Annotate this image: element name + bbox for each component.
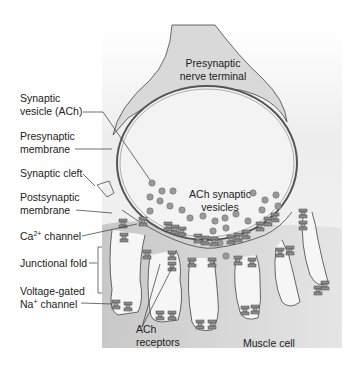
label-junctional-fold: Junctional fold xyxy=(20,257,87,270)
label-voltage-gated-na-channel: Voltage-gated Na+ channel xyxy=(20,285,85,311)
label-postsynaptic-membrane: Postsynaptic membrane xyxy=(20,191,80,217)
label-ach-synaptic-vesicles: ACh synaptic vesicles xyxy=(180,188,260,214)
label-muscle-cell: Muscle cell xyxy=(243,337,295,350)
label-ach-receptors: ACh receptors xyxy=(136,323,180,349)
label-synaptic-cleft: Synaptic cleft xyxy=(20,167,82,180)
label-presynaptic-nerve-terminal: Presynaptic nerve terminal xyxy=(158,57,268,83)
label-synaptic-vesicle: Synaptic vesicle (ACh) xyxy=(20,92,82,118)
label-presynaptic-membrane: Presynaptic membrane xyxy=(20,130,75,156)
label-ca-channel: Ca2+ channel xyxy=(20,230,81,243)
